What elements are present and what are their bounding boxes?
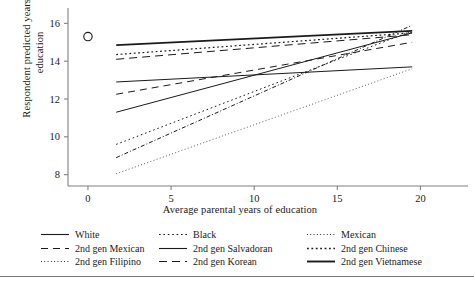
series-line	[116, 42, 412, 94]
series-line	[116, 69, 412, 174]
legend-swatch-icon	[40, 229, 70, 240]
legend-label: Black	[193, 228, 216, 242]
observed-mean-marker	[84, 32, 92, 40]
legend-swatch-icon	[40, 256, 70, 267]
series-lines	[116, 25, 412, 173]
legend-label: 2nd gen Vietnamese	[341, 255, 422, 269]
y-tick-label: 8	[55, 169, 60, 180]
legend-item[interactable]: Black	[158, 228, 306, 242]
legend-item[interactable]: 2nd gen Korean	[158, 255, 306, 269]
tick-labels: 81012141605101520	[50, 18, 426, 204]
legend-label: Mexican	[341, 228, 376, 242]
legend-swatch-icon	[158, 229, 188, 240]
legend-swatch-icon	[158, 243, 188, 254]
legend-item[interactable]: White	[40, 228, 158, 242]
legend-label: 2nd gen Chinese	[341, 242, 408, 256]
y-tick-label: 12	[50, 94, 61, 105]
figure-panel: Respondent predicted years of education …	[0, 0, 474, 286]
series-line	[116, 33, 412, 112]
legend-label: 2nd gen Korean	[193, 255, 257, 269]
series-line	[116, 25, 412, 157]
x-tick-label: 0	[85, 193, 90, 204]
legend-item[interactable]: Mexican	[306, 228, 466, 242]
legend-item[interactable]: 2nd gen Chinese	[306, 242, 466, 256]
legend-item[interactable]: 2nd gen Mexican	[40, 242, 158, 256]
legend-item[interactable]: 2nd gen Salvadoran	[158, 242, 306, 256]
data-markers	[84, 32, 92, 40]
legend-swatch-icon	[306, 256, 336, 267]
legend-swatch-icon	[158, 256, 188, 267]
series-line	[116, 67, 412, 82]
series-line	[116, 31, 412, 144]
legend-row: 2nd gen Filipino2nd gen Korean2nd gen Vi…	[40, 255, 470, 269]
footer-rule	[0, 276, 474, 277]
legend-item[interactable]: 2nd gen Filipino	[40, 255, 158, 269]
legend-label: 2nd gen Mexican	[75, 242, 144, 256]
legend-swatch-icon	[40, 243, 70, 254]
x-tick-label: 10	[249, 193, 260, 204]
legend-swatch-icon	[306, 243, 336, 254]
x-tick-label: 5	[168, 193, 173, 204]
y-tick-label: 16	[50, 18, 61, 29]
x-tick-label: 20	[415, 193, 426, 204]
y-tick-label: 14	[50, 56, 61, 67]
legend: WhiteBlackMexican2nd gen Mexican2nd gen …	[40, 228, 470, 269]
legend-label: White	[75, 228, 99, 242]
legend-swatch-icon	[306, 229, 336, 240]
x-tick-label: 15	[332, 193, 343, 204]
legend-row: 2nd gen Mexican2nd gen Salvadoran2nd gen…	[40, 242, 470, 256]
legend-label: 2nd gen Filipino	[75, 255, 141, 269]
legend-row: WhiteBlackMexican	[40, 228, 470, 242]
legend-item[interactable]: 2nd gen Vietnamese	[306, 255, 466, 269]
y-tick-label: 10	[50, 131, 61, 142]
legend-label: 2nd gen Salvadoran	[193, 242, 272, 256]
